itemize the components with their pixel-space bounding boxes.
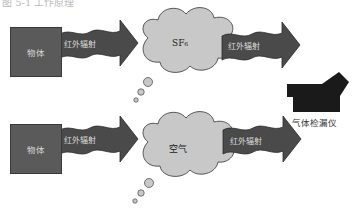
row1-cloud bbox=[143, 8, 234, 73]
row1-object-box: 物体 bbox=[10, 27, 62, 77]
row2-object-box: 物体 bbox=[10, 124, 62, 174]
row2-cloud bbox=[143, 112, 234, 177]
row1-object-label: 物体 bbox=[27, 46, 45, 58]
row2-arrow1-label: 红外辐射 bbox=[64, 134, 96, 145]
row2-arrow2-label: 红外辐射 bbox=[230, 135, 262, 146]
row1-arrow2-label: 红外辐射 bbox=[228, 40, 260, 51]
row2-object-label: 物体 bbox=[27, 143, 45, 155]
bubble bbox=[144, 78, 153, 87]
row2-gas-label: 空气 bbox=[169, 142, 187, 155]
row1-gas-label: SF₆ bbox=[172, 38, 188, 48]
camera-icon bbox=[287, 72, 349, 112]
detector-label: 气体检漏仪 bbox=[292, 116, 337, 128]
row1-arrow1-label: 红外辐射 bbox=[64, 38, 96, 49]
